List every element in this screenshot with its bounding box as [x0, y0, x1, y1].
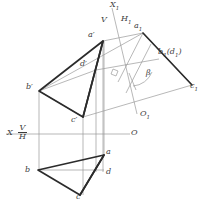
label-a1-aux: a1	[134, 22, 142, 32]
label-o1-aux: O1	[140, 110, 150, 120]
top-view-edge-ac	[80, 155, 104, 195]
label-v-over-h: V H	[18, 124, 27, 141]
label-v-upper: V	[101, 16, 107, 24]
right-angle-mark	[111, 69, 118, 76]
front-view-edge-ac	[83, 41, 103, 117]
label-x1-axis: X1	[110, 1, 119, 11]
construction-lines	[6, 8, 192, 195]
label-a-front: a′	[88, 31, 95, 39]
label-o-axis: O	[131, 129, 138, 137]
label-a-top: a	[106, 148, 111, 156]
label-c1-aux: c1	[190, 82, 198, 92]
label-h1: H1	[121, 15, 131, 25]
descriptive-geometry-figure: X1 V H1 a1 a′ b1(d1) d′ β c1 b′ c′ O1 X …	[0, 0, 211, 203]
label-x-axis: X	[7, 129, 13, 137]
top-view-triangle	[38, 155, 104, 195]
label-c-top: c	[76, 193, 80, 201]
aux-transfer-bd	[39, 70, 96, 91]
label-beta-angle: β	[146, 69, 151, 77]
aux-view-edge-line	[143, 33, 192, 85]
label-b-front: b′	[26, 83, 33, 91]
label-d-top: d	[106, 168, 111, 176]
label-d-front: d′	[80, 60, 87, 68]
label-h-lower: H	[18, 133, 27, 141]
label-c-front: c′	[71, 116, 77, 124]
label-b1-d1-aux: b1(d1)	[158, 48, 182, 58]
aux-plane-edge-upper	[39, 33, 143, 91]
aux-plane-edge-lower	[83, 85, 192, 117]
label-b-top: b	[25, 166, 30, 174]
aux-projector-a	[103, 33, 143, 41]
